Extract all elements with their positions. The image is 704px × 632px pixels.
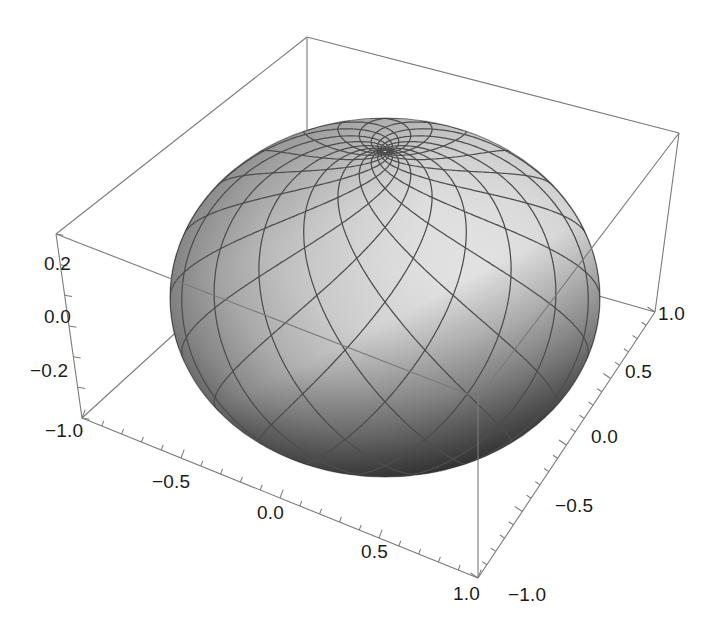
plot-canvas: 0.20.0−0.2−1.0−0.50.00.51.0−1.0−0.50.00.… [0, 0, 704, 632]
tick-label-z-1: 0.0 [44, 306, 71, 327]
tick-label-y-0: −1.0 [508, 584, 546, 605]
sphere-surface [170, 118, 600, 477]
tick-label-x-2: 0.0 [257, 502, 284, 523]
tick-label-x-0: −1.0 [45, 420, 83, 441]
tick-label-y-2: 0.0 [591, 426, 618, 447]
plot-svg: 0.20.0−0.2−1.0−0.50.00.51.0−1.0−0.50.00.… [0, 0, 704, 632]
tick-label-z-2: −0.2 [30, 360, 68, 381]
tick-label-x-3: 0.5 [361, 541, 388, 562]
tick-label-x-1: −0.5 [152, 471, 190, 492]
tick-label-z-0: 0.2 [44, 253, 71, 274]
tick-label-y-3: 0.5 [625, 361, 652, 382]
tick-label-x-4: 1.0 [453, 583, 480, 604]
tick-label-y-4: 1.0 [658, 303, 685, 324]
tick-label-y-1: −0.5 [555, 495, 593, 516]
